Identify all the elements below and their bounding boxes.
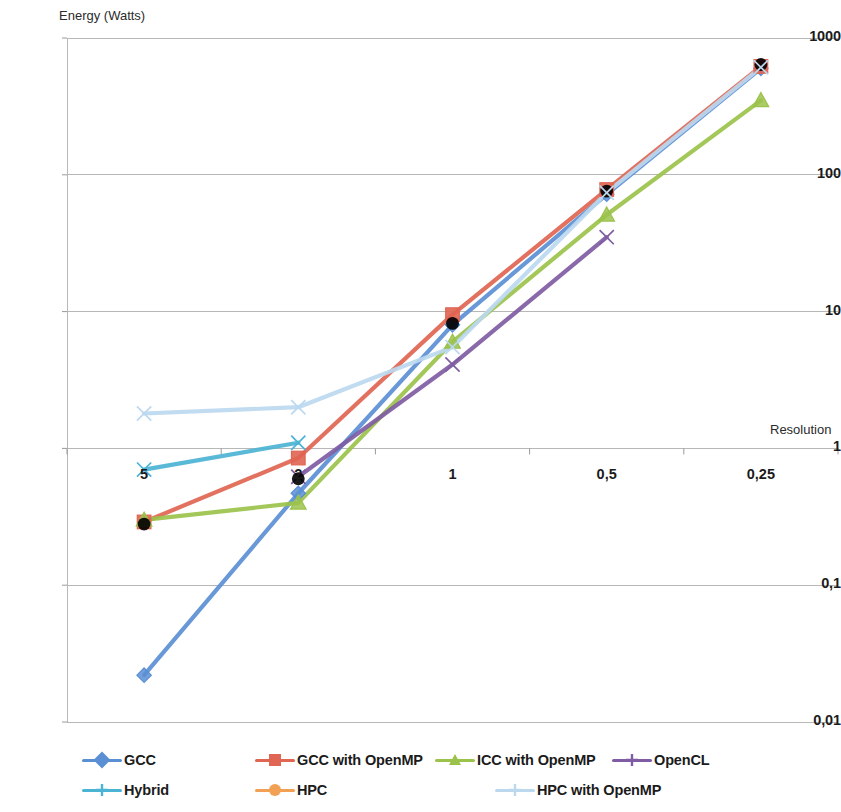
x-tick-label: 2 [294,466,302,482]
data-point-triangle-marker [753,93,769,107]
cross-marker-icon [82,783,122,797]
y-tick-label: 1 [789,438,841,454]
diamond-marker-icon [82,753,122,767]
data-point-cross-marker [445,357,459,371]
legend-label: HPC with OpenMP [537,782,661,798]
energy-resolution-line-chart: Energy (Watts) Resolution 10001001010,10… [0,0,841,812]
y-tick-label: 0,1 [789,575,841,591]
series-line [298,237,606,477]
x-tick-label: 1 [448,466,456,482]
data-point-circle-marker [138,518,151,531]
cross-marker-icon [495,783,535,797]
y-tick-label: 1000 [789,28,841,44]
legend-item-opencl[interactable]: OpenCL [612,752,710,768]
y-tick-label: 0,01 [789,712,841,728]
x-tick-label: 5 [140,466,148,482]
legend-item-hpc-with-openmp[interactable]: HPC with OpenMP [495,782,661,798]
legend-item-gcc-with-openmp[interactable]: GCC with OpenMP [255,752,423,768]
legend-item-gcc[interactable]: GCC [82,752,156,768]
cross-marker-icon [612,753,652,767]
data-point-square-marker [292,451,306,465]
legend-label: GCC [124,752,156,768]
legend-label: ICC with OpenMP [477,752,596,768]
data-point-circle-marker [446,317,459,330]
data-point-cross-marker [600,230,614,244]
legend-label: GCC with OpenMP [297,752,423,768]
x-tick-label: 0,25 [747,466,775,482]
legend-label: HPC [297,782,327,798]
x-tick-label: 0,5 [597,466,617,482]
y-tick-label: 100 [789,165,841,181]
triangle-marker-icon [435,753,475,767]
y-axis-title: Energy (Watts) [59,8,145,23]
legend-item-hybrid[interactable]: Hybrid [82,782,169,798]
legend-item-icc-with-openmp[interactable]: ICC with OpenMP [435,752,596,768]
square-marker-icon [255,753,295,767]
series-line [144,67,761,413]
legend-item-hpc[interactable]: HPC [255,782,327,798]
chart-legend: GCCGCC with OpenMPICC with OpenMPOpenCLH… [0,748,841,812]
plot-area [0,0,841,812]
legend-label: OpenCL [654,752,710,768]
circle-marker-icon [255,783,295,797]
legend-label: Hybrid [124,782,169,798]
x-axis-title: Resolution [770,422,831,437]
data-point-circle-marker [755,58,768,71]
series-line [144,68,761,675]
data-point-circle-marker [600,185,613,198]
y-tick-label: 10 [789,302,841,318]
